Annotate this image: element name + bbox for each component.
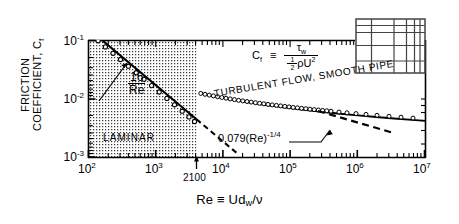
y-axis-title-sub: f: [38, 38, 45, 40]
laminar-formula-label: 16 Re: [128, 71, 145, 96]
blasius-leader-line: [289, 130, 330, 142]
x-tick-label-1e4: 104: [212, 161, 230, 176]
blasius-prefix: 0.079(Re): [218, 132, 267, 144]
identity-sign: ≡: [270, 49, 276, 61]
transition-value-label: 2100: [183, 172, 206, 183]
cf-fraction: τw 12ρU2: [284, 41, 318, 71]
friction-coefficient-chart: FRICTION COEFFICIENT, Cf Re ≡ Udw/ν 10-1…: [0, 0, 459, 224]
x-tick-label-1e7: 107: [413, 161, 431, 176]
x-tick-label-1e6: 106: [346, 161, 364, 176]
blasius-correlation-label: 0.079(Re)-1/4: [218, 130, 281, 144]
blasius-exponent: -1/4: [267, 130, 281, 139]
x-tick-label-1e3: 103: [145, 161, 163, 176]
x-tick-label-1e2: 102: [78, 161, 96, 176]
laminar-formula-denominator: Re: [128, 84, 145, 96]
laminar-region-label: LAMINAR: [103, 132, 155, 143]
x-axis-title: Re ≡ Udw/ν: [0, 192, 459, 208]
y-axis-title-line2: COEFFICIENT, Cf: [32, 5, 46, 165]
cf-definition-formula: Cf ≡ τw 12ρU2: [252, 41, 318, 71]
cf-denominator: 12ρU2: [284, 56, 318, 71]
cf-symbol: C: [252, 49, 260, 61]
cf-numerator: τw: [284, 41, 318, 56]
x-axis-title-pre: Re ≡ Ud: [196, 192, 245, 207]
y-axis-title: FRICTION COEFFICIENT, Cf: [20, 5, 46, 165]
cf-subscript: f: [260, 56, 262, 63]
y-tick-label-1e-1: 10-1: [46, 33, 84, 48]
x-axis-title-post: /ν: [252, 192, 263, 207]
x-tick-label-1e5: 105: [279, 161, 297, 176]
y-tick-label-1e-2: 10-2: [46, 91, 84, 106]
